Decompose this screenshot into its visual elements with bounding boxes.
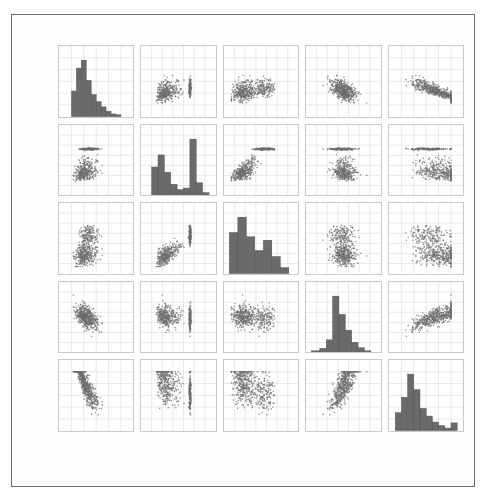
scatter-panel-rm-vs-medv [305, 359, 381, 432]
scatter-panel-lstat-vs-indus [58, 124, 134, 197]
scatter-panel-medv-vs-indus [388, 124, 464, 197]
scatter-panel-medv-vs-nox [388, 202, 464, 275]
scatter-panel-indus-vs-medv [140, 359, 216, 432]
scatter-panel-rm-vs-lstat [305, 45, 381, 118]
histogram-panel-lstat [58, 45, 134, 118]
scatter-panel-nox-vs-rm [223, 281, 299, 354]
histogram-panel-indus [140, 124, 216, 197]
scatter-panel-rm-vs-nox [305, 202, 381, 275]
scatter-panel-indus-vs-nox [140, 202, 216, 275]
scatter-panel-lstat-vs-rm [58, 281, 134, 354]
scatter-panel-rm-vs-indus [305, 124, 381, 197]
scatter-panel-nox-vs-indus [223, 124, 299, 197]
scatter-panel-nox-vs-medv [223, 359, 299, 432]
scatter-panel-nox-vs-lstat [223, 45, 299, 118]
histogram-panel-nox [223, 202, 299, 275]
scatter-plot-matrix [12, 15, 474, 486]
scatter-panel-lstat-vs-medv [58, 359, 134, 432]
figure-frame [11, 14, 475, 487]
scatter-panel-lstat-vs-nox [58, 202, 134, 275]
histogram-panel-rm [305, 281, 381, 354]
histogram-panel-medv [388, 359, 464, 432]
scatter-panel-medv-vs-rm [388, 281, 464, 354]
scatter-panel-medv-vs-lstat [388, 45, 464, 118]
scatter-panel-indus-vs-lstat [140, 45, 216, 118]
scatter-panel-indus-vs-rm [140, 281, 216, 354]
